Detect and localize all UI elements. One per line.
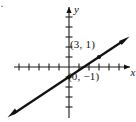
point-dot-3-1 [97,55,101,59]
coordinate-plane: y x [0,0,136,122]
x-axis-arrow-icon [124,64,130,69]
graph-figure: . [0,0,136,122]
point-label-3-1: (3, 1) [70,39,95,50]
y-axis-arrow-icon [66,7,71,13]
y-axis-label: y [73,3,79,15]
line-arrow-start-icon [8,109,18,118]
x-axis-label: x [130,66,136,78]
point-label-0-neg1: (0, −1) [68,71,99,82]
